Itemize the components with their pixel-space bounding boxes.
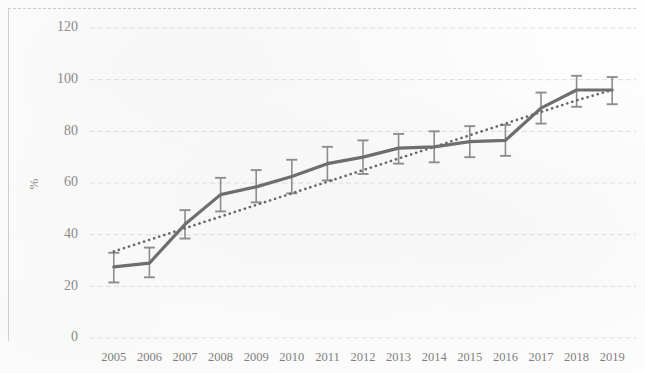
x-tick-2011: 2011 [315, 350, 340, 364]
x-tick-2010: 2010 [279, 350, 304, 364]
x-tick-2008: 2008 [208, 350, 233, 364]
y-tick-60: 60 [64, 174, 78, 189]
y-tick-0: 0 [71, 329, 78, 344]
x-tick-2014: 2014 [422, 350, 448, 364]
x-tick-2009: 2009 [244, 350, 269, 364]
x-tick-2012: 2012 [351, 350, 376, 364]
line-chart-figure: 020406080100120 200520062007200820092010… [0, 0, 645, 373]
x-axis-tick-labels: 2005200620072008200920102011201220132014… [101, 350, 624, 364]
y-tick-40: 40 [64, 226, 78, 241]
x-tick-2017: 2017 [529, 350, 554, 364]
x-tick-2007: 2007 [173, 350, 198, 364]
y-tick-20: 20 [64, 278, 78, 293]
chart-canvas: 020406080100120 200520062007200820092010… [0, 0, 645, 373]
x-tick-2016: 2016 [493, 350, 518, 364]
x-tick-2013: 2013 [386, 350, 411, 364]
x-tick-2018: 2018 [564, 350, 589, 364]
y-tick-100: 100 [57, 71, 78, 86]
y-axis-tick-labels: 020406080100120 [57, 19, 78, 344]
x-tick-2005: 2005 [101, 350, 126, 364]
y-tick-80: 80 [64, 123, 78, 138]
gridlines [90, 28, 636, 338]
x-tick-2006: 2006 [137, 350, 162, 364]
series-line-observed [114, 90, 612, 267]
y-axis-title: % [26, 178, 41, 189]
y-tick-120: 120 [57, 19, 78, 34]
x-tick-2015: 2015 [457, 350, 482, 364]
x-tick-2019: 2019 [600, 350, 625, 364]
